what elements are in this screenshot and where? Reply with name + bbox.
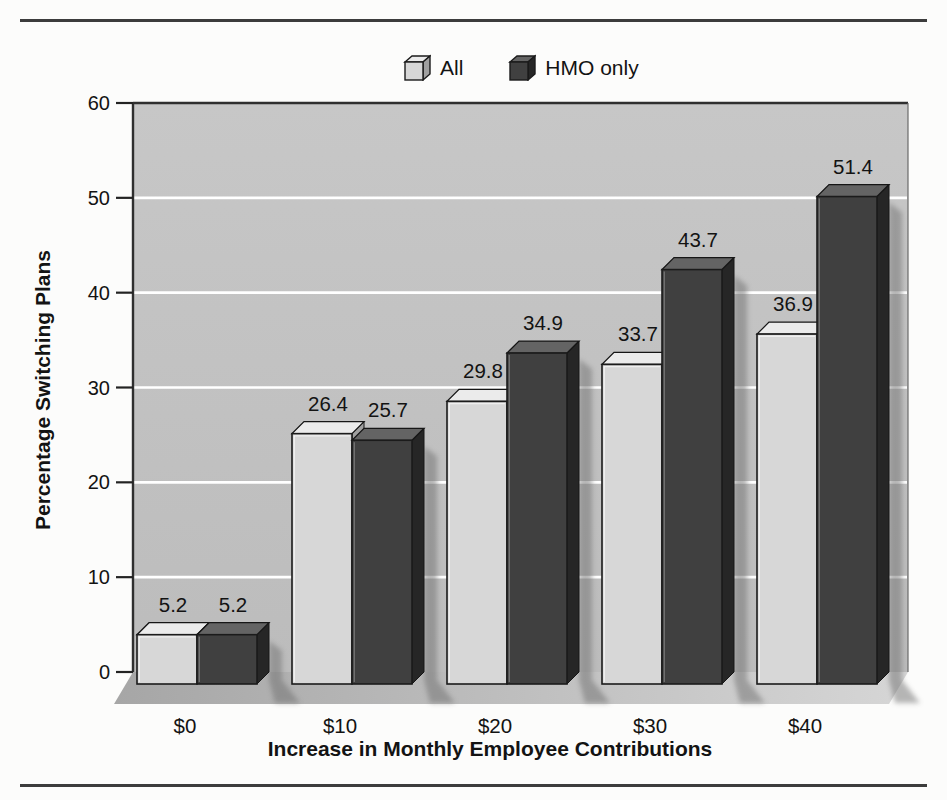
value-label: 34.9 — [523, 311, 563, 334]
bar-front-face — [197, 635, 257, 684]
page: All HMO only 01020304050605.25 — [0, 0, 947, 800]
bar-top-face — [817, 185, 889, 197]
bar-front-face — [757, 334, 817, 684]
bar-front-face — [602, 364, 662, 684]
y-tick-label: 40 — [88, 282, 110, 304]
y-tick-label: 30 — [88, 377, 110, 399]
value-label: 26.4 — [308, 392, 348, 415]
bar-side-face — [412, 428, 424, 684]
value-label: 43.7 — [678, 228, 718, 251]
bar-front-face — [447, 401, 507, 684]
value-label: 51.4 — [833, 155, 873, 178]
x-category-label: $20 — [478, 714, 512, 737]
y-tick-label: 50 — [88, 187, 110, 209]
y-axis-title: Percentage Switching Plans — [31, 250, 54, 530]
x-category-label: $10 — [323, 714, 357, 737]
y-tick-label: 20 — [88, 471, 110, 493]
bar-front-face — [817, 197, 877, 684]
x-axis-title: Increase in Monthly Employee Contributio… — [268, 737, 713, 760]
value-label: 29.8 — [463, 359, 503, 382]
x-category-label: $40 — [788, 714, 822, 737]
bar-top-face — [662, 258, 734, 270]
value-label: 36.9 — [773, 292, 813, 315]
value-label: 25.7 — [368, 398, 408, 421]
bar-top-face — [507, 341, 579, 353]
bar-front-face — [507, 353, 567, 684]
value-label: 5.2 — [219, 593, 248, 616]
bar-front-face — [292, 434, 352, 684]
bar-top-face — [197, 623, 269, 635]
bar-side-face — [722, 258, 734, 684]
x-category-label: $0 — [174, 714, 197, 737]
y-tick-label: 60 — [88, 92, 110, 114]
bar-front-face — [662, 270, 722, 684]
bar-front-face — [352, 440, 412, 684]
y-tick-label: 0 — [99, 661, 110, 683]
bar-front-face — [137, 635, 197, 684]
bar-side-face — [877, 185, 889, 684]
bar-chart: 01020304050605.25.2$026.425.7$1029.834.9… — [0, 0, 947, 800]
chart-layers: 01020304050605.25.2$026.425.7$1029.834.9… — [88, 92, 920, 737]
bar-side-face — [567, 341, 579, 684]
value-label: 5.2 — [159, 593, 188, 616]
y-tick-label: 10 — [88, 566, 110, 588]
bar-top-face — [292, 422, 364, 434]
bar-top-face — [352, 428, 424, 440]
value-label: 33.7 — [618, 322, 658, 345]
x-category-label: $30 — [633, 714, 667, 737]
